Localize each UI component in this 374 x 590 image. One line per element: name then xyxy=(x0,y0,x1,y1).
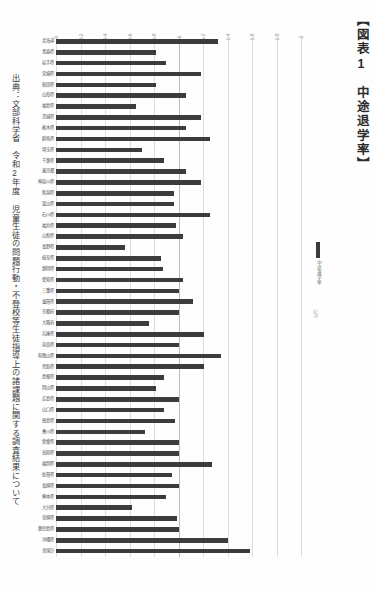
bar xyxy=(56,245,125,250)
bar-row: 福井県 xyxy=(56,220,301,231)
bar xyxy=(56,299,193,304)
category-label: 千葉県 xyxy=(42,159,54,163)
bar xyxy=(56,104,136,109)
legend-swatch xyxy=(316,242,321,258)
bar-row: 京都府 xyxy=(56,307,301,318)
bar-row: 和歌山県 xyxy=(56,350,301,361)
bar xyxy=(56,223,176,228)
bar xyxy=(56,332,204,337)
bar-row: 全国計 xyxy=(56,546,301,557)
category-label: 鳥取県 xyxy=(42,365,54,369)
category-label: 石川県 xyxy=(42,213,54,217)
category-label: 北海道 xyxy=(42,39,54,43)
bar xyxy=(56,39,218,44)
bar-row: 山口県 xyxy=(56,405,301,416)
bar xyxy=(56,473,172,478)
bar-row: 高知県 xyxy=(56,448,301,459)
category-label: 滋賀県 xyxy=(42,300,54,304)
category-label: 茨城県 xyxy=(42,115,54,119)
category-label: 新潟県 xyxy=(42,191,54,195)
bar xyxy=(56,310,179,315)
bar-row: 埼玉県 xyxy=(56,144,301,155)
category-label: 奈良県 xyxy=(42,343,54,347)
bar xyxy=(56,375,164,380)
category-label: 三重県 xyxy=(42,289,54,293)
bar xyxy=(56,549,250,554)
bar xyxy=(56,495,166,500)
bar xyxy=(56,148,142,153)
bar xyxy=(56,321,149,326)
bar-row: 東京都 xyxy=(56,166,301,177)
bar-row: 長崎県 xyxy=(56,481,301,492)
bar xyxy=(56,83,156,88)
bar-row: 岡山県 xyxy=(56,383,301,394)
plot-area: 00.20.40.60.811.21.41.61.82 北海道青森県岩手県宮城県… xyxy=(56,36,301,557)
category-label: 埼玉県 xyxy=(42,148,54,152)
category-label: 富山県 xyxy=(42,202,54,206)
bar-row: 富山県 xyxy=(56,199,301,210)
category-label: 佐賀県 xyxy=(42,473,54,477)
bar-row: 秋田県 xyxy=(56,79,301,90)
bar-rows: 北海道青森県岩手県宮城県秋田県山形県福島県茨城県栃木県群馬県埼玉県千葉県東京都神… xyxy=(56,36,301,557)
category-label: 神奈川県 xyxy=(38,180,54,184)
bar-row: 愛知県 xyxy=(56,275,301,286)
category-label: 山梨県 xyxy=(42,234,54,238)
bar-row: 兵庫県 xyxy=(56,329,301,340)
bar xyxy=(56,484,179,489)
bar-row: 北海道 xyxy=(56,36,301,47)
bar-row: 宮崎県 xyxy=(56,513,301,524)
bar-row: 愛媛県 xyxy=(56,437,301,448)
bar-row: 佐賀県 xyxy=(56,470,301,481)
bar xyxy=(56,50,156,55)
bar xyxy=(56,267,163,272)
bar xyxy=(56,343,179,348)
category-label: 宮城県 xyxy=(42,72,54,76)
bar xyxy=(56,191,174,196)
category-label: 宮崎県 xyxy=(42,516,54,520)
category-label: 長崎県 xyxy=(42,484,54,488)
bar-row: 香川県 xyxy=(56,426,301,437)
bar xyxy=(56,180,201,185)
category-label: 岩手県 xyxy=(42,61,54,65)
bar-row: 岩手県 xyxy=(56,58,301,69)
bar-row: 山形県 xyxy=(56,90,301,101)
bar-row: 沖縄県 xyxy=(56,535,301,546)
bar-row: 大分県 xyxy=(56,502,301,513)
bar-row: 福島県 xyxy=(56,101,301,112)
bar-row: 福岡県 xyxy=(56,459,301,470)
bar-row: 奈良県 xyxy=(56,340,301,351)
bar-row: 滋賀県 xyxy=(56,296,301,307)
category-label: 群馬県 xyxy=(42,137,54,141)
bar-row: 山梨県 xyxy=(56,231,301,242)
bar-row: 茨城県 xyxy=(56,112,301,123)
bar-row: 千葉県 xyxy=(56,155,301,166)
category-label: 大分県 xyxy=(42,506,54,510)
bar xyxy=(56,115,201,120)
bar xyxy=(56,61,166,66)
category-label: 福島県 xyxy=(42,104,54,108)
bar-row: 広島県 xyxy=(56,394,301,405)
category-label: 秋田県 xyxy=(42,83,54,87)
bar-row: 神奈川県 xyxy=(56,177,301,188)
bar xyxy=(56,419,175,424)
bar xyxy=(56,430,145,435)
bar-row: 新潟県 xyxy=(56,188,301,199)
bar xyxy=(56,397,179,402)
bar xyxy=(56,538,228,543)
category-label: 岡山県 xyxy=(42,386,54,390)
category-label: 和歌山県 xyxy=(38,354,54,358)
bar-row: 栃木県 xyxy=(56,123,301,134)
bar xyxy=(56,462,212,467)
category-label: 徳島県 xyxy=(42,419,54,423)
category-label: 兵庫県 xyxy=(42,332,54,336)
page-title: 【図表1 中途退学率】 xyxy=(352,14,368,171)
legend-label: 中途退学率 xyxy=(315,260,321,285)
category-label: 長野県 xyxy=(42,245,54,249)
chart-container: 00.20.40.60.811.21.41.61.82 北海道青森県岩手県宮城県… xyxy=(33,16,323,561)
bar-row: 宮城県 xyxy=(56,69,301,80)
category-label: 東京都 xyxy=(42,169,54,173)
category-label: 香川県 xyxy=(42,430,54,434)
category-label: 愛媛県 xyxy=(42,440,54,444)
bar xyxy=(56,364,204,369)
bar xyxy=(56,158,164,163)
